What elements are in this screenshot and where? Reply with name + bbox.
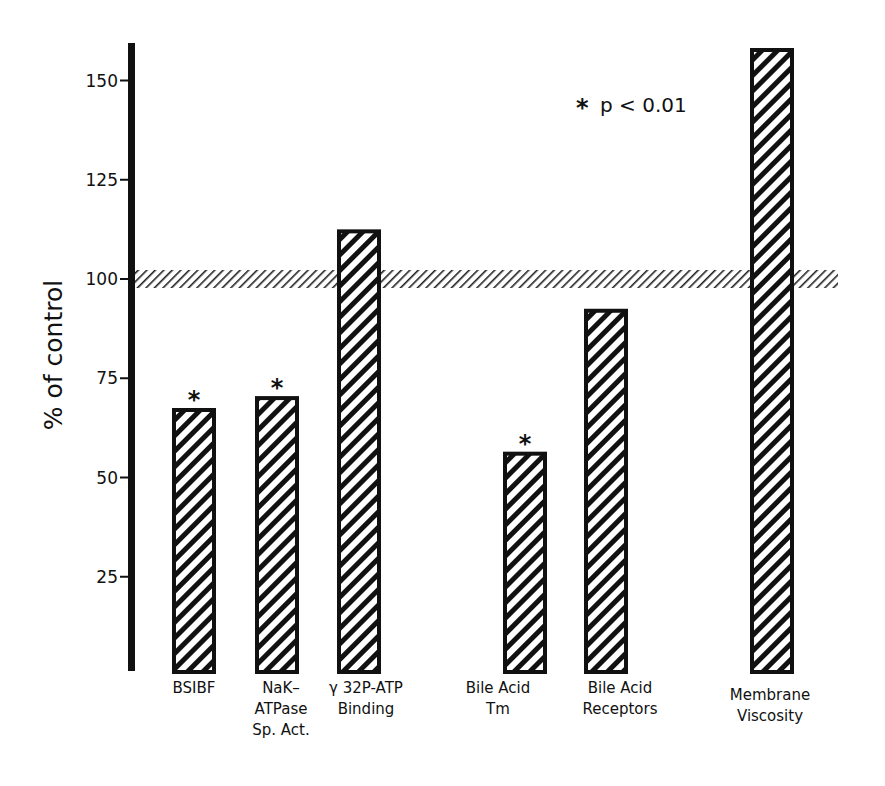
y-tick-label: 100 — [86, 269, 118, 289]
y-tick-label: 75 — [96, 368, 118, 388]
category-label: NaK–ATPaseSp. Act. — [252, 679, 309, 739]
category-label: Bile AcidTm — [466, 679, 531, 718]
bar-bile-acid-receptors — [586, 311, 626, 672]
bar--32p-atp-binding — [339, 231, 379, 672]
y-axis-label: % of control — [39, 280, 68, 430]
significance-star: * — [271, 374, 284, 402]
category-labels: BSIBFNaK–ATPaseSp. Act.γ 32P-ATPBindingB… — [173, 679, 811, 739]
bars: *** — [174, 50, 792, 672]
category-label: BSIBF — [173, 679, 216, 697]
y-tick-label: 25 — [96, 567, 118, 587]
significance-star: * — [188, 386, 201, 414]
category-label: γ 32P-ATPBinding — [329, 679, 403, 718]
y-tick-label: 125 — [86, 170, 118, 190]
significance-star: * — [519, 430, 532, 458]
significance-legend: * p < 0.01 — [576, 93, 687, 122]
reference-band-100 — [134, 270, 838, 288]
category-label: MembraneViscosity — [730, 686, 810, 725]
y-tick-label: 150 — [86, 71, 118, 91]
y-tick-label: 50 — [96, 468, 118, 488]
legend-star: * — [576, 94, 589, 122]
bar-bile-acid-tm — [505, 454, 545, 672]
bar-chart: *** 255075100125150 % of control * p < 0… — [0, 0, 885, 786]
bar-membrane-viscosity — [752, 50, 792, 672]
y-axis-ticks: 255075100125150 — [86, 71, 130, 587]
category-label: Bile AcidReceptors — [582, 679, 657, 718]
bar-bsibf — [174, 410, 214, 672]
bar-nak-atpase-sp-act- — [257, 398, 297, 672]
legend-text: p < 0.01 — [600, 93, 687, 117]
